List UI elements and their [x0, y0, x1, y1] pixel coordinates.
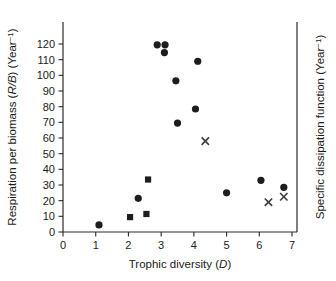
- y-tick-label: 70: [43, 116, 55, 128]
- data-points-layer: [95, 41, 287, 228]
- y2-axis-title: Specific dissipation function (Year−1): [314, 35, 327, 220]
- y-tick-label: 120: [37, 38, 55, 50]
- y-axis-ticks: 0102030405060708090100110120: [37, 38, 63, 238]
- y-axis-title: Respiration per biomass (R/B) (Year−1): [6, 28, 19, 225]
- y-tick-label: 0: [49, 226, 55, 238]
- chart-figure: 0102030405060708090100110120 01234567 Tr…: [0, 0, 336, 281]
- data-point-circle: [154, 41, 161, 48]
- y-tick-label: 20: [43, 195, 55, 207]
- y-tick-label: 110: [37, 54, 55, 66]
- x-axis-title: Trophic diversity (D): [129, 258, 232, 270]
- data-point-square: [143, 211, 149, 217]
- x-tick-label: 0: [60, 239, 66, 251]
- y-tick-label: 100: [37, 69, 55, 81]
- scatter-plot-svg: 0102030405060708090100110120 01234567 Tr…: [0, 0, 336, 281]
- data-point-circle: [135, 195, 142, 202]
- x-tick-label: 6: [256, 239, 262, 251]
- data-point-square: [127, 214, 133, 220]
- data-point-square: [145, 176, 151, 182]
- y-tick-label: 40: [43, 163, 55, 175]
- data-point-cross: [280, 193, 287, 200]
- x-tick-label: 3: [158, 239, 164, 251]
- data-point-circle: [161, 41, 168, 48]
- x-tick-label: 5: [224, 239, 230, 251]
- x-axis-ticks: 01234567: [60, 232, 295, 251]
- x-tick-label: 4: [191, 239, 197, 251]
- y-tick-label: 50: [43, 148, 55, 160]
- y-tick-label: 10: [43, 210, 55, 222]
- data-point-circle: [192, 105, 199, 112]
- data-point-cross: [202, 137, 209, 144]
- data-point-circle: [280, 184, 287, 191]
- y-tick-label: 90: [43, 85, 55, 97]
- x-tick-label: 2: [125, 239, 131, 251]
- data-point-circle: [223, 189, 230, 196]
- data-point-circle: [161, 49, 168, 56]
- x-tick-label: 1: [93, 239, 99, 251]
- y-tick-label: 60: [43, 132, 55, 144]
- data-point-circle: [172, 77, 179, 84]
- data-point-circle: [194, 58, 201, 65]
- y-tick-label: 30: [43, 179, 55, 191]
- x-tick-label: 7: [289, 239, 295, 251]
- data-point-circle: [174, 120, 181, 127]
- y-tick-label: 80: [43, 101, 55, 113]
- data-point-cross: [265, 199, 272, 206]
- data-point-circle: [257, 177, 264, 184]
- data-point-circle: [95, 221, 102, 228]
